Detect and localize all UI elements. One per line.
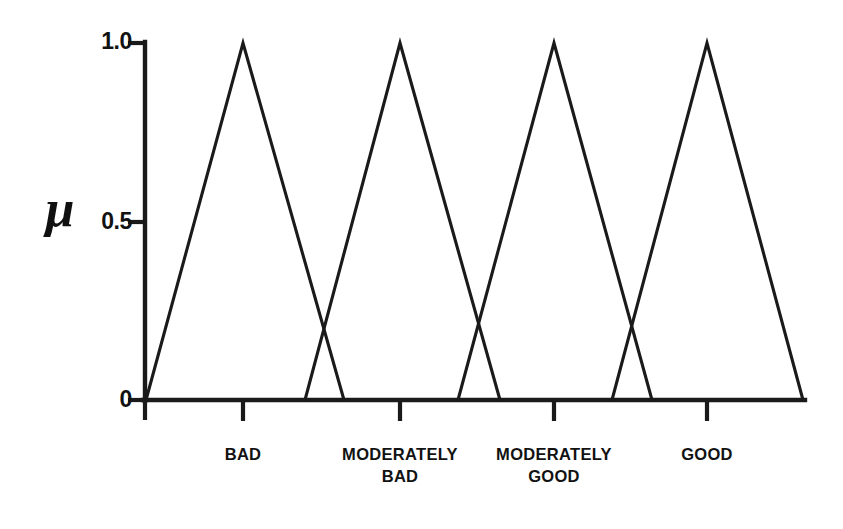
x-axis-label-bad: BAD <box>183 443 303 465</box>
y-tick-label-0.5: 0.5 <box>62 208 132 235</box>
y-tick-label-0: 0 <box>62 386 132 413</box>
y-tick-label-1.0: 1.0 <box>62 28 132 55</box>
membership-curve-moderately-good <box>458 43 652 400</box>
membership-curve-moderately-bad <box>305 43 500 400</box>
x-axis-label-moderately-bad: MODERATELY BAD <box>325 443 475 488</box>
membership-curve-good <box>612 43 803 400</box>
membership-curve-bad <box>146 43 344 400</box>
fuzzy-membership-figure: μ 1.0 0.5 0 BAD MODERATELY BAD MODERATEL… <box>0 0 843 529</box>
x-axis-label-good: GOOD <box>647 443 767 465</box>
x-axis-label-moderately-good: MODERATELY GOOD <box>479 443 629 488</box>
